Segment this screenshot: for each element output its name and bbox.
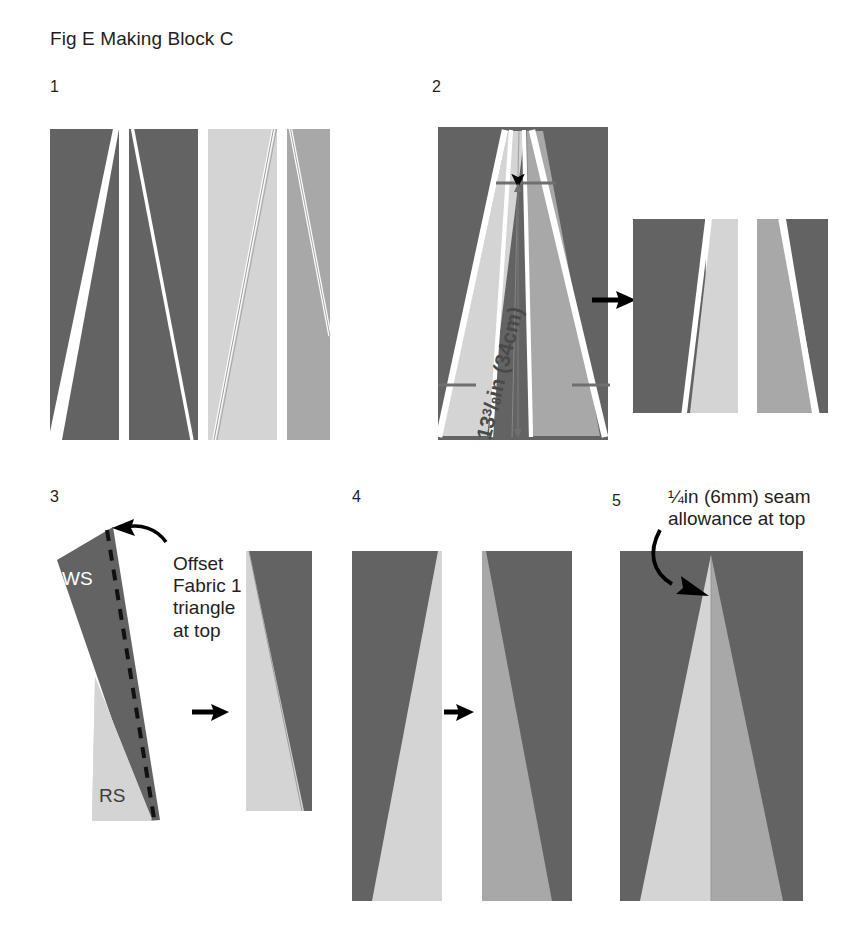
label-ws: WS [62,568,93,590]
step3-result [246,551,312,811]
step3-callout-line-4: at top [173,620,242,642]
step3-callout-line-3: triangle [173,597,242,619]
step2-result-left [633,219,738,415]
step5-callout: ¼in (6mm) seam allowance at top [668,486,811,530]
step1-group [50,129,330,440]
step-number-5: 5 [612,492,621,510]
step3-arrow [192,704,229,721]
step1-strip-4 [287,129,330,440]
figure-root: Fig E Making Block C 1 2 3 4 5 [0,0,852,940]
step-number-2: 2 [432,78,441,96]
label-rs: RS [99,785,125,807]
step3-callout-line-1: Offset [173,553,242,575]
figure-title: Fig E Making Block C [50,28,234,50]
dimension-prefix: 13 [472,414,500,442]
diagram-canvas [0,0,852,940]
dimension-suffix: in (34cm) [482,304,527,399]
step3-callout: Offset Fabric 1 triangle at top [173,553,242,642]
step2-assembly-left [438,127,610,440]
step5-group [620,530,803,901]
step5-callout-arrow [653,530,709,596]
step1-strip-2 [129,129,198,440]
step3-callout-line-2: Fabric 1 [173,575,242,597]
step-number-1: 1 [50,78,59,96]
step1-strip-1 [50,129,119,440]
step-number-3: 3 [50,488,59,506]
step2-dimension-label: 133/8in (34cm) [472,304,528,442]
step5-callout-line-1: ¼in (6mm) seam [668,486,811,508]
step4-unit-right [482,551,572,901]
step4-group [352,551,572,901]
step5-callout-line-2: allowance at top [668,508,811,530]
step4-arrow [444,704,474,721]
step3-offset-pair [57,519,166,821]
step-number-4: 4 [352,488,361,506]
step1-strip-3 [208,129,277,440]
step2-arrow [592,291,636,309]
step4-unit-left [352,551,442,901]
step2-result-right [757,219,828,415]
